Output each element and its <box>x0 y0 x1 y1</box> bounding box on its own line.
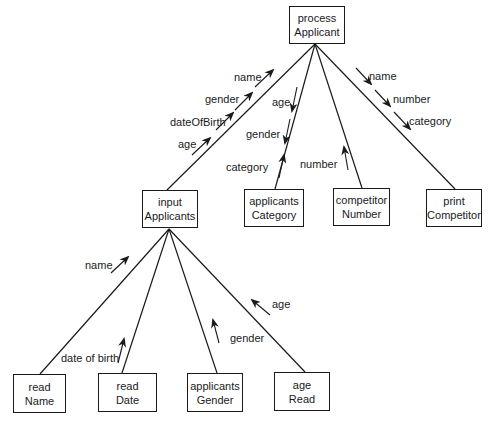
data-flow-arrow-icon <box>394 112 410 129</box>
module-applicants-category[interactable]: applicants Category <box>244 189 304 227</box>
flow-label-name: name <box>234 71 262 83</box>
module-label-line2: Applicants <box>145 209 196 223</box>
module-label-line1: read <box>116 379 138 393</box>
module-label-line1: age <box>293 378 311 392</box>
module-label-line1: process <box>298 11 337 25</box>
flow-label-category: category <box>409 115 451 127</box>
module-applicants-gender[interactable]: applicants Gender <box>187 373 243 412</box>
connection-line <box>122 229 169 373</box>
module-process-applicant[interactable]: process Applicant <box>289 6 345 44</box>
module-label-line2: Date <box>116 393 139 407</box>
module-label-line1: read <box>28 380 50 394</box>
module-label-line2: Category <box>252 208 297 222</box>
flow-label-name: name <box>85 259 113 271</box>
module-label-line1: applicants <box>190 379 240 393</box>
flow-label-gender: gender <box>205 93 239 105</box>
module-read-date[interactable]: read Date <box>98 373 157 412</box>
flow-label-age: age <box>272 96 290 108</box>
data-flow-arrow-icon <box>279 155 284 178</box>
flow-label-age: age <box>178 138 196 150</box>
flow-label-date-of-birth: date of birth <box>61 352 119 364</box>
data-flow-arrow-icon <box>252 300 270 315</box>
module-print-competitor[interactable]: print Competitor <box>426 189 482 227</box>
flow-label-name: name <box>369 70 397 82</box>
data-flow-arrow-icon <box>344 147 348 170</box>
module-label-line2: Gender <box>197 393 234 407</box>
structure-chart-diagram: process Applicant input Applicants appli… <box>0 0 491 422</box>
module-label-line2: Name <box>25 394 54 408</box>
data-flow-arrow-icon <box>292 87 297 111</box>
module-input-applicants[interactable]: input Applicants <box>142 190 198 228</box>
flow-label-gender: gender <box>246 128 280 140</box>
module-label-line1: competitor <box>336 193 387 207</box>
flow-label-number: number <box>300 158 337 170</box>
flow-label-number: number <box>393 93 430 105</box>
flow-label-date-of-birth: dateOfBirth <box>170 116 226 128</box>
data-flow-arrow-icon <box>111 257 128 273</box>
flow-label-gender: gender <box>230 332 264 344</box>
data-flow-arrow-icon <box>213 320 219 343</box>
data-flow-arrow-icon <box>375 90 390 106</box>
module-label-line2: Number <box>342 207 381 221</box>
connection-line <box>169 229 217 373</box>
module-label-line2: Applicant <box>294 25 339 39</box>
module-competitor-number[interactable]: competitor Number <box>333 188 390 226</box>
module-label-line1: input <box>158 195 182 209</box>
flow-label-category: category <box>226 161 268 173</box>
module-label-line1: print <box>443 194 464 208</box>
module-label-line2: Read <box>289 392 315 406</box>
module-read-name[interactable]: read Name <box>13 374 66 413</box>
module-age-read[interactable]: age Read <box>274 372 330 411</box>
flow-label-age: age <box>272 298 290 310</box>
module-label-line1: applicants <box>249 194 299 208</box>
module-label-line2: Competitor <box>427 208 481 222</box>
